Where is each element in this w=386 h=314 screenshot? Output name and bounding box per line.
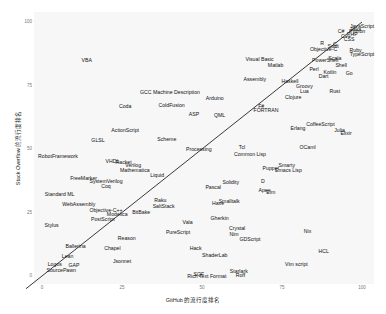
data-point-label: Processing — [186, 148, 212, 153]
data-point-label: OCaml — [300, 145, 316, 150]
data-point-label: Vala — [183, 220, 193, 225]
data-point-label: Nim — [229, 233, 238, 238]
data-point-label: PostScript — [91, 218, 115, 223]
data-point-label: Chapel — [104, 247, 120, 252]
data-point-label: PureScript — [166, 230, 190, 235]
data-point-label: Rich Text Format — [187, 275, 226, 280]
data-point-label: Clojure — [285, 96, 301, 101]
data-point-label: GCC Machine Description — [140, 91, 200, 96]
data-point-label: RobotFramework — [38, 154, 78, 159]
x-tick-label: 25 — [119, 286, 124, 291]
x-tick-label: 0 — [41, 286, 44, 291]
x-tick-label: 100 — [358, 286, 366, 291]
data-point-label: Lean — [62, 254, 74, 259]
data-point-label: Lua — [300, 89, 309, 94]
data-point-label: HCL — [318, 249, 328, 254]
x-axis-title: GitHub 的流行度排名 — [166, 296, 221, 304]
data-point-label: Haxe — [212, 201, 224, 206]
data-point-label: Coda — [119, 104, 131, 109]
data-point-label: Roff — [236, 273, 245, 278]
data-point-label: Rust — [329, 89, 340, 94]
data-point-label: Nix — [304, 229, 312, 234]
data-point-label: Mathematica — [120, 168, 150, 173]
data-point-label: Shell — [335, 64, 347, 69]
data-point-label: Gherkin — [211, 216, 229, 221]
data-point-label: CoffeeScript — [306, 122, 334, 127]
data-point-label: Stylus — [45, 224, 59, 229]
data-point-label: Reason — [118, 237, 136, 242]
data-point-label: BitBake — [132, 210, 150, 215]
data-point-label: Common Lisp — [234, 153, 266, 158]
data-point-label: Go — [346, 71, 353, 76]
y-tick-label: 75 — [27, 83, 32, 88]
data-point-label: GLSL — [91, 139, 104, 144]
x-tick-label: 50 — [199, 286, 204, 291]
data-point-label: Coq — [101, 184, 111, 189]
y-tick-label: 0 — [29, 274, 32, 279]
data-point-label: Tcl — [239, 145, 245, 150]
scatter-chart: JavaScriptJavaPythonPHPC#C++CSSCRObjecti… — [0, 0, 386, 314]
data-point-label: SourcePawn — [46, 268, 75, 273]
data-point-label: Swift — [328, 45, 339, 50]
data-point-label: TypeScript — [350, 52, 375, 57]
data-point-label: Solidity — [222, 181, 239, 186]
y-axis-title: Stack Overflow 的流行度排名 — [14, 111, 22, 186]
data-point-label: Jsonnet — [113, 259, 131, 264]
data-point-label: Hack — [190, 247, 202, 252]
y-tick-label: 50 — [27, 147, 32, 152]
data-point-label: Arduino — [206, 97, 224, 102]
data-point-label: Erlang — [291, 126, 306, 131]
data-point-label: ColdFusion — [158, 103, 184, 108]
data-point-label: Vim script — [285, 262, 308, 267]
data-point-label: Dart — [319, 74, 329, 79]
data-point-label: D — [261, 179, 265, 184]
data-point-label: Liquid — [150, 173, 164, 178]
y-tick-label: 25 — [27, 210, 32, 215]
data-point-label: ActionScript — [111, 129, 139, 134]
data-point-label: Pascal — [205, 186, 221, 191]
data-point-label: Perl — [309, 68, 318, 73]
data-point-label: QML — [214, 113, 225, 118]
data-point-label: Scala — [328, 56, 341, 61]
data-point-label: ASP — [189, 112, 199, 117]
data-point-label: ShaderLab — [202, 253, 227, 258]
data-point-label: Assembly — [244, 78, 267, 83]
data-point-label: Emacs Lisp — [275, 168, 302, 173]
data-point-label: FORTRAN — [254, 108, 279, 113]
data-point-label: Ballerina — [66, 244, 86, 249]
y-tick-label: 100 — [24, 20, 32, 25]
data-point-label: VBA — [82, 59, 92, 64]
data-point-label: Elm — [266, 191, 275, 196]
data-point-label: CSS — [344, 37, 355, 42]
data-point-label: SaltStack — [153, 205, 175, 210]
data-point-label: Elixir — [340, 131, 351, 136]
x-tick-label: 75 — [279, 286, 284, 291]
data-point-label: Scheme — [157, 138, 176, 143]
data-point-label: Standard ML — [45, 192, 75, 197]
data-point-label: GDScript — [239, 238, 260, 243]
data-point-label: Matlab — [268, 64, 284, 69]
